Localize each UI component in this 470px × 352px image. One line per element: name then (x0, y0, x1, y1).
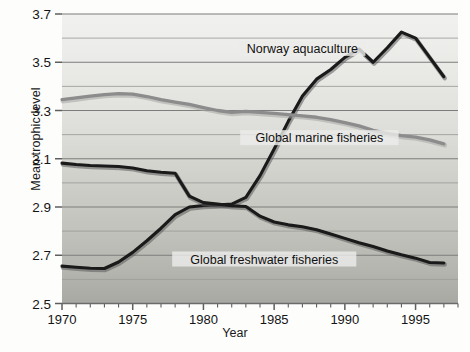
y-tick-label: 2.7 (32, 248, 51, 263)
series-label: Global marine fisheries (255, 131, 383, 145)
x-tick-label: 1980 (189, 312, 218, 327)
x-axis-title: Year (0, 326, 470, 340)
y-axis-title: Mean trophic level (29, 79, 43, 199)
y-tick-label: 3.7 (32, 7, 51, 22)
x-tick-label: 1995 (401, 312, 430, 327)
x-axis-ticks (62, 304, 458, 311)
line-chart: 2.52.72.93.13.33.53.7 197019751980198519… (0, 0, 470, 352)
x-tick-label: 1990 (330, 312, 359, 327)
x-tick-label: 1985 (260, 312, 289, 327)
y-tick-label: 3.5 (32, 55, 51, 70)
x-axis-tick-labels: 197019751980198519901995 (48, 312, 430, 327)
y-axis-ticks (55, 14, 62, 304)
x-tick-label: 1975 (118, 312, 147, 327)
series-label: Global freshwater fisheries (190, 253, 338, 267)
chart-figure: 2.52.72.93.13.33.53.7 197019751980198519… (0, 0, 470, 352)
x-tick-label: 1970 (48, 312, 77, 327)
y-tick-label: 2.5 (32, 297, 51, 312)
series-label: Norway aquaculture (247, 42, 358, 56)
y-tick-label: 2.9 (32, 200, 51, 215)
